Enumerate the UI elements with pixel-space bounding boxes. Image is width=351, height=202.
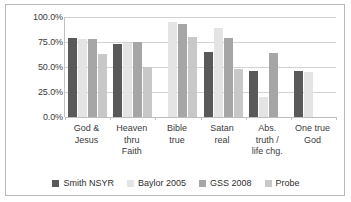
legend-label: Smith NSYR: [63, 178, 114, 188]
bar: [123, 43, 132, 117]
x-axis-label-line: Faith: [109, 146, 154, 158]
legend-label: Probe: [276, 178, 300, 188]
bar: [113, 44, 122, 117]
bar: [168, 22, 177, 117]
bar-group: [65, 17, 110, 117]
legend-swatch-icon: [52, 180, 59, 187]
x-axis-labels: God &JesusHeaventhruFaithBibletrueSatanr…: [64, 123, 335, 171]
bar: [259, 97, 268, 117]
bar: [249, 71, 258, 117]
x-axis-tick: [65, 117, 66, 120]
y-axis: 0.0%25.0%50.0%75.0%100.0%: [12, 5, 63, 117]
bar-group: [201, 17, 246, 117]
bar: [304, 72, 313, 117]
plot-wrapper: 0.0%25.0%50.0%75.0%100.0%: [6, 5, 346, 133]
chart-frame: 0.0%25.0%50.0%75.0%100.0% God &JesusHeav…: [5, 4, 345, 196]
legend-label: Baylor 2005: [138, 178, 186, 188]
bar: [98, 54, 107, 117]
bar: [294, 71, 303, 117]
x-axis-label-line: thru: [109, 135, 154, 147]
legend-item[interactable]: Smith NSYR: [52, 178, 114, 188]
x-axis-label: Bibletrue: [154, 123, 199, 146]
x-axis-label-line: Heaven: [109, 123, 154, 135]
y-tick-label: 100.0%: [12, 13, 63, 22]
plot-area: [64, 17, 336, 117]
x-axis-label-line: truth /: [245, 135, 290, 147]
bar: [78, 39, 87, 117]
y-tick-label: 25.0%: [12, 88, 63, 97]
x-axis-label: Abs.truth /life chg.: [245, 123, 290, 158]
bar-group: [291, 17, 336, 117]
x-axis-label-line: life chg.: [245, 146, 290, 158]
bar: [178, 24, 187, 117]
x-axis-label-line: One true: [290, 123, 335, 135]
bar-group: [246, 17, 291, 117]
legend-swatch-icon: [265, 180, 272, 187]
x-axis-label-line: Abs.: [245, 123, 290, 135]
x-axis-label: God &Jesus: [64, 123, 109, 146]
bar: [234, 69, 243, 117]
y-tick-label: 50.0%: [12, 63, 63, 72]
y-tick-label: 75.0%: [12, 38, 63, 47]
x-axis-tick: [155, 117, 156, 120]
bar: [214, 28, 223, 117]
bar: [143, 67, 152, 117]
x-axis-tick: [336, 117, 337, 120]
bars-layer: [65, 17, 336, 117]
bar: [68, 38, 77, 117]
x-axis-label-line: Bible: [154, 123, 199, 135]
legend-label: GSS 2008: [210, 178, 252, 188]
x-axis-tick: [110, 117, 111, 120]
x-axis-label-line: Satan: [200, 123, 245, 135]
bar-group: [110, 17, 155, 117]
x-axis-label: HeaventhruFaith: [109, 123, 154, 158]
y-tick-label: 0.0%: [12, 113, 63, 122]
legend-item[interactable]: Probe: [265, 178, 300, 188]
bar-group: [155, 17, 200, 117]
legend-swatch-icon: [127, 180, 134, 187]
x-axis-label: One trueGod: [290, 123, 335, 146]
x-axis-label-line: real: [200, 135, 245, 147]
x-axis-tick: [201, 117, 202, 120]
x-axis-label-line: God: [290, 135, 335, 147]
legend-swatch-icon: [199, 180, 206, 187]
x-axis-tick: [291, 117, 292, 120]
x-axis-label-line: Jesus: [64, 135, 109, 147]
chart-legend: Smith NSYRBaylor 2005GSS 2008Probe: [6, 173, 346, 193]
x-axis-tick: [246, 117, 247, 120]
bar: [88, 39, 97, 117]
bar: [224, 38, 233, 117]
bar: [133, 42, 142, 117]
bar: [188, 37, 197, 117]
x-axis-label: Satanreal: [200, 123, 245, 146]
legend-item[interactable]: GSS 2008: [199, 178, 252, 188]
legend-item[interactable]: Baylor 2005: [127, 178, 186, 188]
x-axis-label-line: true: [154, 135, 199, 147]
bar: [204, 52, 213, 117]
x-axis-label-line: God &: [64, 123, 109, 135]
bar: [269, 53, 278, 117]
